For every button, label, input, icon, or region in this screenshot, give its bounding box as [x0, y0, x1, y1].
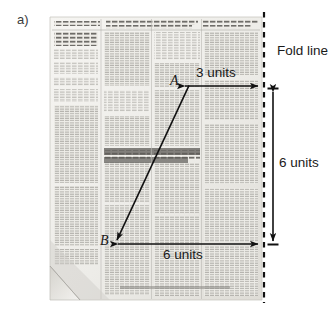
panel-label-a: a)	[17, 13, 29, 26]
figure-panel-a: a) Fold line 3 units 6 units 6 units A B	[0, 0, 331, 319]
measure-label-6-units-right: 6 units	[279, 156, 319, 170]
point-a-label: A	[170, 74, 179, 88]
measure-label-6-units-bottom: 6 units	[163, 248, 203, 262]
newspaper-sheet	[50, 17, 262, 300]
measure-label-3-units: 3 units	[196, 66, 236, 80]
point-b-label: B	[100, 234, 109, 248]
fold-line-label: Fold line	[277, 44, 328, 58]
